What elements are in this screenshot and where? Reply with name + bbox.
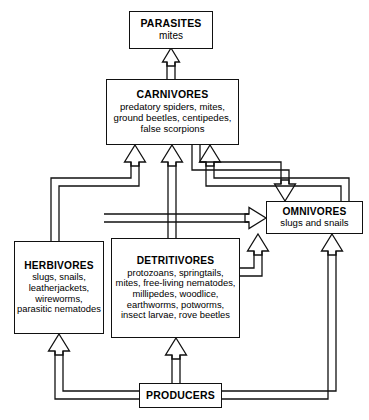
node-detritivores-title: DETRITIVORES (137, 255, 215, 266)
edge-detritivores-to-omnivores (240, 234, 269, 276)
node-herbivores[interactable]: HERBIVORES slugs, snails, leatherjackets… (14, 241, 104, 334)
node-detritivores[interactable]: DETRITIVORES protozoans, springtails, mi… (111, 238, 240, 338)
edge-carnivores-to-omnivores (192, 145, 296, 201)
node-carnivores-members: predatory spiders, mites, ground beetles… (107, 102, 238, 134)
edge-detritivores-to-carnivores (162, 145, 183, 238)
edge-producers-to-herbivores (49, 334, 140, 399)
edge-producers-to-detritivores (166, 338, 187, 383)
node-parasites-title: PARASITES (140, 18, 201, 30)
node-parasites-members: mites (159, 30, 183, 41)
node-herbivores-members: slugs, snails, leatherjackets, wireworms… (15, 272, 103, 315)
edge-herbivores-to-omnivores (104, 208, 266, 229)
node-omnivores[interactable]: OMNIVORES slugs and snails (266, 201, 363, 234)
edge-herbivores-to-carnivores (51, 145, 146, 241)
node-herbivores-title: HERBIVORES (24, 260, 93, 271)
diagram-canvas: PARASITES mites CARNIVORES predatory spi… (0, 0, 369, 420)
edge-omnivores-to-carnivores (200, 145, 350, 201)
node-omnivores-members: slugs and snails (280, 218, 348, 229)
node-producers-title: PRODUCERS (146, 390, 215, 402)
node-carnivores-title: CARNIVORES (136, 89, 208, 101)
node-carnivores[interactable]: CARNIVORES predatory spiders, mites, gro… (106, 79, 239, 145)
edge-producers-to-omnivores (222, 234, 343, 399)
node-parasites[interactable]: PARASITES mites (129, 11, 213, 49)
node-detritivores-members: protozoans, springtails, mites, free-liv… (112, 268, 239, 321)
node-producers[interactable]: PRODUCERS (139, 383, 222, 408)
edge-carnivores-to-parasites (163, 48, 180, 79)
